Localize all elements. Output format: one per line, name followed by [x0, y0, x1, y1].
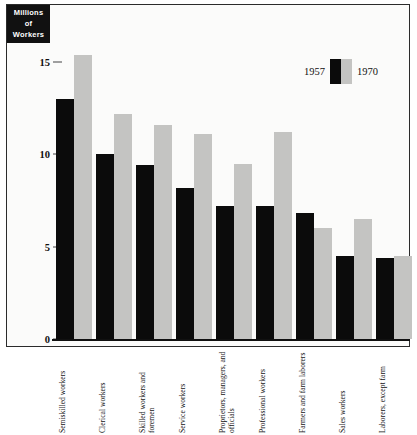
bar-1957-6 — [256, 206, 274, 339]
category-label-text: Laborers, except farm — [378, 349, 387, 433]
category-label-9: Laborers, except farm — [378, 349, 416, 433]
bar-1957-5 — [216, 206, 234, 339]
bar-1970-1 — [74, 55, 92, 339]
bar-1970-8 — [354, 219, 372, 339]
bar-1957-3 — [136, 165, 154, 339]
legend-swatch-1970 — [341, 59, 352, 84]
bar-1970-5 — [234, 164, 252, 339]
legend-swatch-1957 — [330, 59, 341, 84]
category-label-text: Clerical workers — [98, 349, 107, 433]
bar-1970-2 — [114, 114, 132, 339]
category-label-3: Skilled workers and foremen — [138, 349, 176, 433]
category-label-text: Sales workers — [338, 349, 347, 433]
bar-1957-7 — [296, 213, 314, 339]
y-axis-tick-mark — [53, 61, 62, 62]
category-label-1: Semiskilled workers — [58, 349, 96, 433]
category-label-6: Professional workers — [258, 349, 296, 433]
category-label-text: Proprietors, managers, and officials — [218, 349, 236, 433]
bar-1957-1 — [56, 99, 74, 339]
bar-1957-4 — [176, 188, 194, 339]
category-label-4: Service workers — [178, 349, 216, 433]
category-label-text: Semiskilled workers — [58, 349, 67, 433]
x-axis-baseline — [52, 339, 410, 341]
bar-1970-6 — [274, 132, 292, 339]
chart-figure: Millions of Workers 051015 1957 1970 Sem… — [0, 0, 417, 435]
y-axis-tick-label: 5 — [14, 241, 50, 252]
legend-label-1957: 1957 — [299, 66, 330, 77]
bar-1970-7 — [314, 228, 332, 339]
y-axis-tick-label: 0 — [14, 334, 50, 345]
bar-1970-9 — [394, 256, 412, 339]
bar-1970-4 — [194, 134, 212, 339]
category-label-7: Farmers and farm laborers — [298, 349, 336, 433]
plot-area: 051015 — [0, 0, 417, 347]
bar-1970-3 — [154, 125, 172, 339]
legend-label-1970: 1970 — [352, 66, 383, 77]
category-label-text: Skilled workers and foremen — [138, 349, 156, 433]
category-label-text: Farmers and farm laborers — [298, 349, 307, 433]
chart-legend: 1957 1970 — [299, 58, 383, 84]
category-label-8: Sales workers — [338, 349, 376, 433]
bar-1957-9 — [376, 258, 394, 339]
y-axis-tick-label: 15 — [14, 56, 50, 67]
bar-1957-8 — [336, 256, 354, 339]
category-label-2: Clerical workers — [98, 349, 136, 433]
category-label-text: Service workers — [178, 349, 187, 433]
category-axis-labels: Semiskilled workersClerical workersSkill… — [0, 349, 417, 435]
bar-1957-2 — [96, 154, 114, 339]
y-axis-tick-label: 10 — [14, 149, 50, 160]
category-label-5: Proprietors, managers, and officials — [218, 349, 256, 433]
category-label-text: Professional workers — [258, 349, 267, 433]
